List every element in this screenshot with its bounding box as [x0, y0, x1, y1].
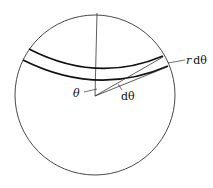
sphere-diagram: θ dθ rdθ: [0, 0, 213, 188]
r-dtheta-d-text: dθ: [193, 54, 207, 67]
r-dtheta-label: rdθ: [186, 54, 207, 67]
polar-axis: [95, 13, 97, 96]
dtheta-text: dθ: [121, 90, 135, 103]
r-text: r: [186, 54, 192, 67]
r-dtheta-leader: [168, 60, 185, 63]
theta-label: θ: [73, 87, 80, 100]
dtheta-label: dθ: [121, 90, 135, 103]
